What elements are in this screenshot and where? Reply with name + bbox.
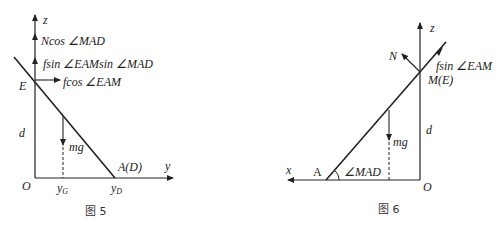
figure-5-caption: 图 5	[85, 205, 107, 218]
gravity-label: mg	[69, 140, 84, 154]
point-me-label: M(E)	[427, 73, 453, 87]
figure-5: z Ncos ∠MAD fsin ∠EAMsin ∠MAD fcos ∠EAM …	[14, 13, 173, 218]
gravity-label: mg	[393, 135, 408, 149]
point-e-label: E	[18, 79, 27, 93]
tick-yd-label: yD	[110, 181, 122, 196]
figure-6-caption: 图 6	[378, 203, 400, 216]
dimension-d-label: d	[19, 126, 26, 140]
normal-force-arrow	[402, 54, 420, 72]
y-axis-label: y	[164, 159, 171, 173]
friction-vertical-arrowhead-icon	[32, 57, 38, 64]
normal-force-label: N	[388, 49, 398, 63]
origin-label: O	[423, 180, 432, 194]
z-axis-label: z	[429, 21, 435, 35]
x-axis-label: x	[285, 163, 292, 177]
figure-6: z N fsin ∠EAM M(E) d mg x A ∠MAD O 图 6	[285, 21, 493, 216]
z-axis-label: z	[42, 13, 48, 27]
angle-mad-label: ∠MAD	[344, 165, 381, 179]
dimension-d-label: d	[426, 123, 433, 137]
friction-horizontal-label: fcos ∠EAM	[63, 75, 122, 89]
rod	[326, 42, 446, 180]
friction-label: fsin ∠EAM	[436, 59, 493, 73]
point-a-label: A	[313, 165, 322, 179]
normal-vertical-label: Ncos ∠MAD	[40, 34, 105, 48]
normal-force-arrowhead-icon	[32, 33, 38, 40]
origin-label: O	[22, 179, 31, 193]
friction-vertical-label: fsin ∠EAMsin ∠MAD	[43, 57, 153, 71]
diagram-canvas: z Ncos ∠MAD fsin ∠EAMsin ∠MAD fcos ∠EAM …	[0, 0, 504, 231]
angle-arc	[334, 170, 339, 180]
point-ad-label: A(D)	[117, 160, 142, 174]
tick-yg-label: yG	[56, 181, 68, 196]
